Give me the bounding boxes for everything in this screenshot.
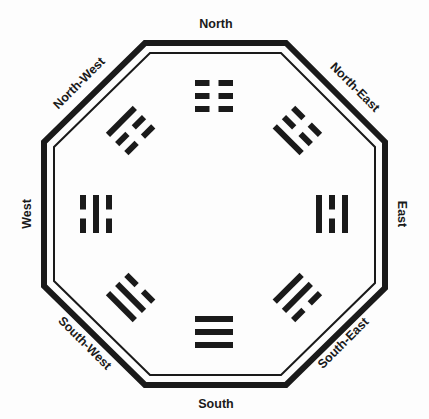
- bagua-diagram: North South West East North-West North-E…: [0, 0, 429, 419]
- trigram-line-broken-segment: [141, 124, 155, 138]
- trigram-line-broken-segment: [329, 195, 335, 210]
- trigram-north-east: [273, 106, 322, 155]
- trigram-line-solid: [195, 316, 233, 322]
- trigram-south: [195, 316, 233, 348]
- trigram-line-broken-segment: [219, 93, 234, 99]
- trigram-line-broken-segment: [115, 132, 129, 146]
- trigram-line-broken-segment: [106, 195, 112, 210]
- trigram-line-broken-segment: [291, 106, 305, 120]
- trigram-line-solid: [106, 106, 137, 137]
- trigram-line-broken-segment: [219, 106, 234, 112]
- trigram-line-broken-segment: [124, 141, 138, 155]
- trigram-east: [316, 195, 348, 233]
- trigram-line-solid: [195, 342, 233, 348]
- trigram-line-broken-segment: [291, 308, 305, 322]
- trigram-line-broken-segment: [124, 273, 138, 287]
- trigram-line-broken-segment: [80, 219, 86, 234]
- trigram-south-west: [106, 273, 155, 322]
- trigram-north-west: [106, 106, 155, 155]
- trigram-line-broken-segment: [329, 219, 335, 234]
- trigram-line-solid: [342, 195, 348, 233]
- trigram-line-broken-segment: [80, 195, 86, 210]
- trigram-line-broken-segment: [195, 80, 210, 86]
- trigram-line-broken-segment: [195, 93, 210, 99]
- trigram-line-broken-segment: [195, 106, 210, 112]
- trigram-line-broken-segment: [219, 80, 234, 86]
- label-south: South: [198, 397, 233, 411]
- label-east: East: [395, 201, 409, 228]
- trigram-line-solid: [93, 195, 99, 233]
- trigram-line-solid: [316, 195, 322, 233]
- trigram-line-solid: [195, 329, 233, 335]
- label-north: North: [199, 17, 232, 31]
- trigram-line-broken-segment: [308, 122, 322, 136]
- label-south-east: South-East: [315, 314, 372, 371]
- label-west: West: [20, 198, 34, 228]
- trigram-line-broken-segment: [132, 115, 146, 129]
- trigram-line-broken-segment: [141, 289, 155, 303]
- trigram-line-broken-segment: [308, 291, 322, 305]
- trigram-line-broken-segment: [298, 132, 312, 146]
- trigram-line-solid: [273, 124, 304, 155]
- trigram-south-east: [273, 273, 322, 322]
- trigram-line-broken-segment: [106, 219, 112, 234]
- inner-octagon-border: [54, 53, 375, 375]
- trigram-west: [80, 195, 112, 233]
- trigram-north: [195, 80, 233, 112]
- trigram-line-broken-segment: [282, 115, 296, 129]
